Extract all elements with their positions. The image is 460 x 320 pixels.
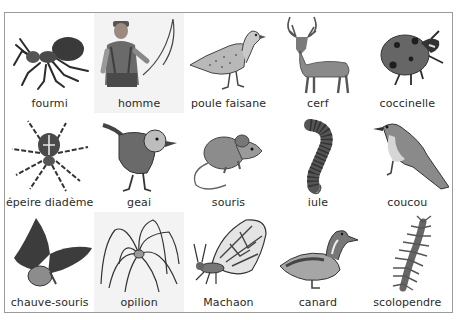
ant-icon — [8, 15, 92, 95]
animal-card-iule: iule — [273, 113, 362, 213]
animal-card-epeire-diademe: épeire diadème — [5, 113, 94, 213]
mouse-icon — [186, 115, 270, 195]
animal-label: coccinelle — [363, 97, 452, 110]
duck-icon — [276, 214, 360, 294]
animal-card-scolopendre: scolopendre — [363, 212, 452, 312]
animal-label: homme — [94, 97, 183, 110]
animal-label: chauve-souris — [5, 296, 94, 309]
animal-card-opilion: opilion — [94, 212, 183, 312]
animal-label: opilion — [94, 296, 183, 309]
animal-label: souris — [184, 196, 273, 209]
fisherman-icon — [97, 15, 181, 95]
animal-grid: fourmi homme — [5, 13, 452, 312]
animal-card-coccinelle: coccinelle — [363, 13, 452, 113]
animal-card-poule-faisane: poule faisane — [184, 13, 273, 113]
animal-card-chauve-souris: chauve-souris — [5, 212, 94, 312]
harvestman-icon — [97, 214, 181, 294]
animal-picture-board: fourmi homme — [4, 12, 453, 313]
jay-icon — [97, 115, 181, 195]
animal-card-canard: canard — [273, 212, 362, 312]
animal-card-homme: homme — [94, 13, 183, 113]
swallowtail-butterfly-icon — [186, 214, 270, 294]
animal-label: épeire diadème — [5, 196, 94, 209]
animal-card-geai: geai — [94, 113, 183, 213]
animal-card-machaon: Machaon — [184, 212, 273, 312]
animal-card-cerf: cerf — [273, 13, 362, 113]
bat-icon — [8, 214, 92, 294]
centipede-icon — [365, 214, 449, 294]
animal-label: Machaon — [184, 296, 273, 309]
animal-card-souris: souris — [184, 113, 273, 213]
cuckoo-icon — [365, 115, 449, 195]
animal-card-coucou: coucou — [363, 113, 452, 213]
animal-label: poule faisane — [184, 97, 273, 110]
animal-label: canard — [273, 296, 362, 309]
animal-label: cerf — [273, 97, 362, 110]
ladybug-icon — [365, 15, 449, 95]
animal-card-fourmi: fourmi — [5, 13, 94, 113]
animal-label: fourmi — [5, 97, 94, 110]
animal-label: geai — [94, 196, 183, 209]
millipede-icon — [276, 115, 360, 195]
animal-label: coucou — [363, 196, 452, 209]
animal-label: iule — [273, 196, 362, 209]
hen-pheasant-icon — [186, 15, 270, 95]
animal-label: scolopendre — [363, 296, 452, 309]
garden-spider-icon — [8, 115, 92, 195]
deer-icon — [276, 15, 360, 95]
